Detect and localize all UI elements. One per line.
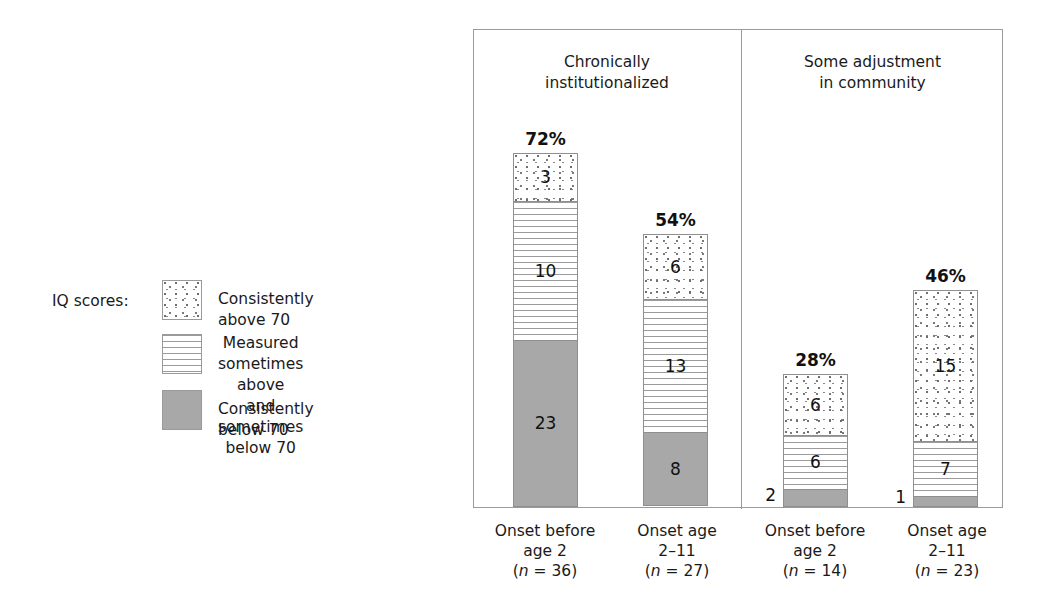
- bar-percent-label-4: 46%: [913, 268, 978, 285]
- bar-segment-above-70: 3: [513, 153, 578, 202]
- x-label-n: (n = 36): [479, 561, 611, 581]
- bar-segment-value: 13: [665, 358, 687, 375]
- bar-percent-label-2: 54%: [643, 212, 708, 229]
- legend-label-above-70: Consistently above 70: [218, 289, 314, 331]
- legend-swatch-striped-icon: [162, 334, 202, 374]
- x-label-line2: 2–11: [611, 541, 743, 561]
- legend-swatch-solid-icon: [162, 390, 202, 430]
- bar-segment-value: 6: [810, 397, 821, 414]
- x-axis-label-4: Onset age 2–11 (n = 23): [881, 521, 1013, 581]
- bar-segment-sometimes: 7: [913, 441, 978, 497]
- stacked-bar-onset-before-age-2-community[interactable]: 6 6: [783, 374, 848, 508]
- bar-segment-below-70: 23: [513, 340, 578, 507]
- x-label-n: (n = 27): [611, 561, 743, 581]
- x-label-n: (n = 14): [749, 561, 881, 581]
- bar-segment-value: 3: [540, 169, 551, 186]
- panel-title-some-adjustment: Some adjustment in community: [742, 52, 1003, 94]
- legend-label-below-70: Consistently below 70: [218, 399, 314, 441]
- bar-segment-value: 7: [940, 461, 951, 478]
- legend-title: IQ scores:: [52, 292, 129, 310]
- panel-title-chronically-institutionalized: Chronically institutionalized: [473, 52, 741, 94]
- x-label-line2: age 2: [749, 541, 881, 561]
- bar-percent-label-3: 28%: [783, 352, 848, 369]
- stacked-bar-onset-before-age-2-institutionalized[interactable]: 3 10 23: [513, 153, 578, 508]
- bar-segment-value: 10: [535, 263, 557, 280]
- bar-segment-value: 6: [810, 454, 821, 471]
- bar-segment-above-70: 15: [913, 290, 978, 442]
- bar-segment-below-70: [783, 489, 848, 507]
- bar-segment-sometimes: 10: [513, 201, 578, 341]
- x-axis-label-3: Onset before age 2 (n = 14): [749, 521, 881, 581]
- x-label-line1: Onset age: [611, 521, 743, 541]
- x-label-line1: Onset before: [479, 521, 611, 541]
- x-axis-label-2: Onset age 2–11 (n = 27): [611, 521, 743, 581]
- bar-segment-below-70: [913, 496, 978, 507]
- bar-segment-value: 23: [535, 415, 557, 432]
- bar-segment-value: 15: [935, 358, 957, 375]
- x-label-line1: Onset before: [749, 521, 881, 541]
- x-label-line2: 2–11: [881, 541, 1013, 561]
- bar-outside-label-3: 2: [738, 487, 776, 504]
- bar-percent-label-1: 72%: [513, 131, 578, 148]
- x-label-n: (n = 23): [881, 561, 1013, 581]
- stacked-bar-onset-age-2-11-community[interactable]: 15 7: [913, 290, 978, 508]
- bar-segment-value: 8: [670, 461, 681, 478]
- x-axis-label-1: Onset before age 2 (n = 36): [479, 521, 611, 581]
- bar-segment-above-70: 6: [643, 234, 708, 300]
- bar-segment-value: 6: [670, 259, 681, 276]
- legend-swatch-dotted-icon: [162, 280, 202, 320]
- bar-segment-above-70: 6: [783, 374, 848, 436]
- bar-outside-label-4: 1: [868, 489, 906, 506]
- bar-segment-sometimes: 13: [643, 299, 708, 433]
- x-label-line1: Onset age: [881, 521, 1013, 541]
- x-label-line2: age 2: [479, 541, 611, 561]
- bar-segment-sometimes: 6: [783, 435, 848, 490]
- bar-segment-below-70: 8: [643, 432, 708, 506]
- stacked-bar-onset-age-2-11-institutionalized[interactable]: 6 13 8: [643, 234, 708, 508]
- panel-divider: [741, 29, 742, 509]
- chart-canvas: IQ scores: Consistently above 70 Measure…: [0, 0, 1055, 606]
